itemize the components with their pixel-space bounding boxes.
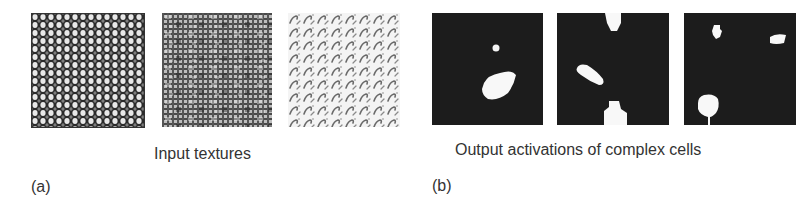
- panel-b-label: (b): [432, 177, 452, 195]
- input-texture-cellular: [31, 13, 145, 128]
- activation-map-3: [684, 13, 796, 125]
- input-texture-grid: [162, 13, 272, 127]
- panel-a-caption: Input textures: [154, 145, 251, 163]
- activation-map-2: [557, 13, 669, 125]
- input-texture-hooks: [288, 13, 400, 127]
- panel-a-label: (a): [31, 178, 51, 196]
- panel-b-caption: Output activations of complex cells: [455, 141, 701, 159]
- activation-map-1: [432, 13, 543, 125]
